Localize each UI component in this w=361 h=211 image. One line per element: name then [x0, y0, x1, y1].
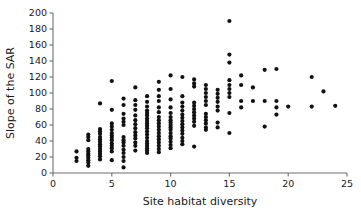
data-point: [227, 78, 231, 82]
data-point: [192, 145, 196, 149]
data-point: [121, 155, 125, 159]
data-point: [86, 138, 90, 142]
data-point: [133, 144, 137, 148]
data-point: [192, 85, 196, 89]
data-point: [310, 75, 314, 79]
data-point: [227, 87, 231, 91]
data-point: [169, 105, 173, 109]
data-point: [239, 83, 243, 87]
data-point: [74, 159, 78, 163]
data-point: [227, 83, 231, 87]
data-point: [121, 151, 125, 155]
data-point: [239, 73, 243, 77]
data-point: [204, 121, 208, 125]
data-point: [239, 99, 243, 103]
x-tick-label: 25: [341, 178, 353, 189]
plot-canvas: 020406080100120140160180200 0510152025 S…: [0, 0, 361, 211]
data-point: [169, 87, 173, 91]
data-point: [227, 95, 231, 99]
data-point: [145, 151, 149, 155]
y-tick-label: 120: [29, 71, 47, 82]
x-tick-label: 15: [223, 178, 235, 189]
axis-spines: [53, 13, 347, 173]
data-point: [133, 113, 137, 117]
data-point: [239, 105, 243, 109]
y-tick-label: 60: [35, 119, 47, 130]
y-tick-label: 200: [29, 7, 47, 18]
data-point: [133, 149, 137, 153]
data-point: [274, 105, 278, 109]
data-point: [121, 97, 125, 101]
data-point: [227, 53, 231, 57]
data-point: [216, 96, 220, 100]
data-point: [157, 94, 161, 98]
data-point: [180, 101, 184, 105]
data-point: [121, 144, 125, 148]
data-point: [169, 97, 173, 101]
data-point: [133, 126, 137, 130]
data-point: [145, 105, 149, 109]
data-point: [204, 128, 208, 132]
data-point: [192, 124, 196, 128]
data-point: [216, 105, 220, 109]
data-point: [169, 111, 173, 115]
data-point: [263, 125, 267, 129]
data-point: [110, 108, 114, 112]
data-point: [216, 109, 220, 113]
data-point: [169, 146, 173, 150]
data-point: [157, 110, 161, 114]
data-point: [274, 67, 278, 71]
data-point: [86, 164, 90, 168]
data-point: [263, 99, 267, 103]
data-point: [310, 105, 314, 109]
data-point: [110, 158, 114, 162]
x-tick-label: 10: [165, 178, 177, 189]
data-point: [204, 103, 208, 107]
data-point: [274, 99, 278, 103]
data-point: [274, 113, 278, 117]
data-point: [227, 91, 231, 95]
data-point: [157, 99, 161, 103]
y-tick-label: 160: [29, 39, 47, 50]
data-point: [227, 61, 231, 65]
data-point: [133, 118, 137, 122]
data-point: [180, 142, 184, 146]
data-point: [204, 83, 208, 87]
data-point: [227, 111, 231, 115]
data-point: [121, 112, 125, 116]
data-point: [216, 121, 220, 125]
data-point: [169, 73, 173, 77]
data-point: [121, 159, 125, 163]
data-point: [133, 137, 137, 141]
data-point: [133, 122, 137, 126]
x-axis-title: Site habitat diversity: [143, 195, 258, 208]
data-point: [157, 88, 161, 92]
data-point: [204, 95, 208, 99]
data-point: [157, 80, 161, 84]
data-point: [216, 125, 220, 129]
data-point: [216, 92, 220, 96]
data-point: [321, 89, 325, 93]
data-point: [204, 91, 208, 95]
data-point: [192, 120, 196, 124]
x-axis-ticks: 0510152025: [50, 173, 353, 189]
data-point: [251, 85, 255, 89]
data-point: [180, 109, 184, 113]
data-point: [98, 101, 102, 105]
data-point: [145, 100, 149, 104]
data-point: [133, 98, 137, 102]
data-point: [180, 105, 184, 109]
data-point: [98, 157, 102, 161]
data-point: [133, 103, 137, 107]
data-point: [180, 94, 184, 98]
data-point: [157, 150, 161, 154]
data-point: [286, 105, 290, 109]
data-point: [263, 68, 267, 72]
data-point: [110, 149, 114, 153]
y-tick-label: 20: [35, 151, 47, 162]
data-point: [145, 94, 149, 98]
data-point: [121, 103, 125, 107]
y-axis-ticks: 020406080100120140160180200: [29, 7, 53, 178]
y-tick-label: 0: [41, 167, 47, 178]
x-tick-label: 5: [109, 178, 115, 189]
